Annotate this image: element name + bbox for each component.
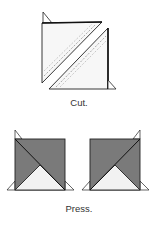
dog-ear-bottom-right — [108, 80, 116, 89]
caption-press: Press. — [0, 203, 158, 214]
cut-illustration — [42, 12, 116, 89]
diagram-canvas — [0, 0, 158, 231]
press-illustration-right — [82, 130, 149, 190]
dog-ear-bottom-left — [82, 181, 90, 190]
dog-ear-bottom-right — [140, 181, 149, 190]
dog-ear-top — [15, 130, 22, 139]
dog-ear-top — [133, 130, 140, 139]
dog-ear-bottom-left — [7, 181, 15, 190]
press-illustration-left — [7, 130, 74, 190]
caption-cut: Cut. — [0, 97, 158, 108]
dog-ear-bottom-right — [65, 181, 74, 190]
dog-ear-top-left — [43, 12, 52, 23]
